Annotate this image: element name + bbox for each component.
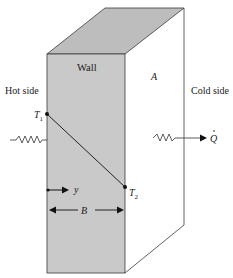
- heat-flow-label: Q: [210, 133, 218, 144]
- y-label: y: [73, 184, 79, 195]
- t1-label: T1: [34, 109, 44, 123]
- wall-top-face: [47, 8, 184, 54]
- heat-in-zigzag-icon: [10, 136, 47, 143]
- t2-label-sub: 2: [135, 193, 139, 201]
- thickness-label: B: [81, 205, 87, 216]
- heat-out-arrow-icon: [200, 135, 207, 142]
- hot-side-label: Hot side: [5, 85, 39, 96]
- t2-point: [123, 185, 127, 189]
- t1-point: [45, 112, 49, 116]
- heat-flow-dot-icon: [213, 130, 215, 132]
- t1-label-sub: 1: [40, 115, 44, 123]
- wall-label: Wall: [77, 62, 97, 73]
- t2-label: T2: [129, 187, 139, 201]
- heat-out-zigzag-icon: [153, 134, 200, 141]
- area-label: A: [150, 71, 158, 82]
- wall-conduction-diagram: Wall A Hot side Cold side T1 T2 y B Q: [0, 0, 233, 278]
- wall-front-face: [47, 54, 125, 273]
- wall-side-face: [125, 8, 184, 273]
- cold-side-label: Cold side: [191, 85, 230, 96]
